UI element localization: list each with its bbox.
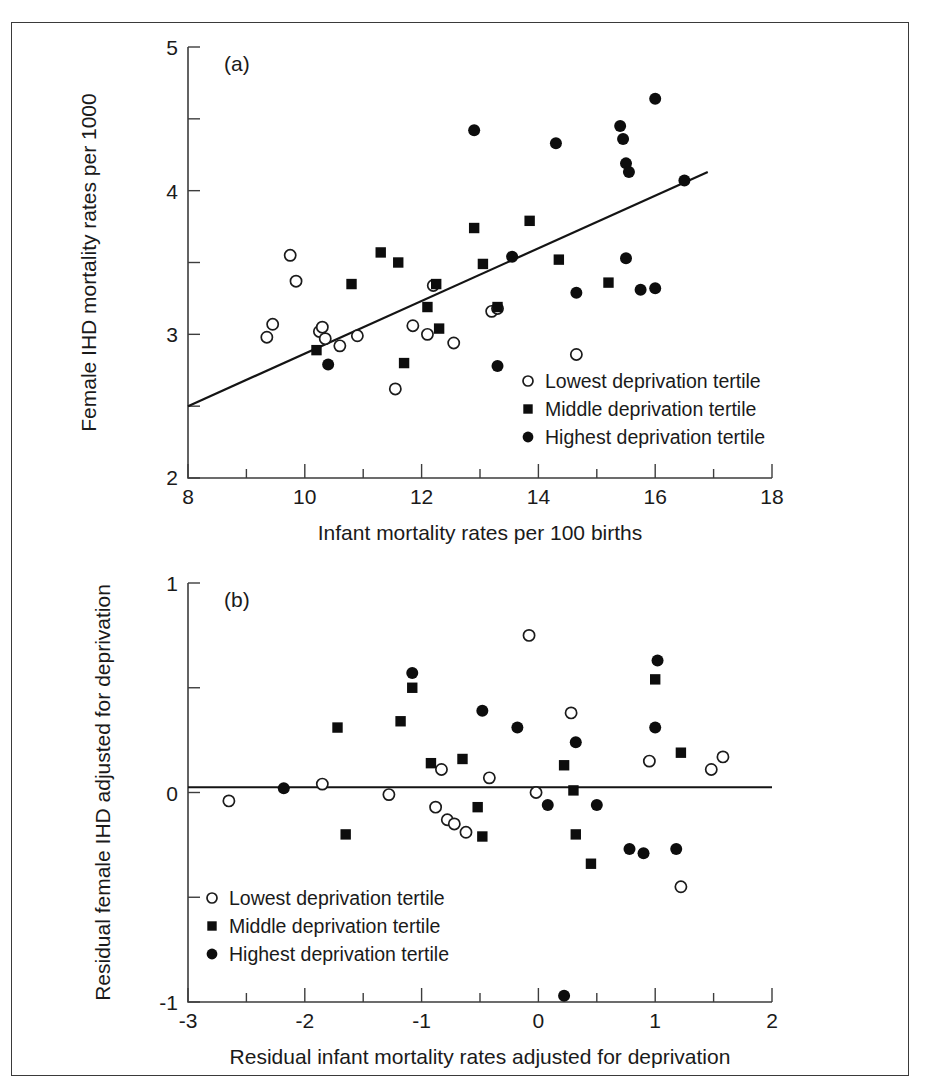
data-point (317, 779, 328, 790)
panel-b-y-ticklabel: 0 (166, 782, 178, 805)
data-point (530, 787, 541, 798)
data-point (586, 859, 596, 869)
data-point (568, 785, 578, 795)
data-point (717, 751, 728, 762)
data-point (570, 736, 582, 748)
data-point (472, 802, 482, 812)
panel-b-y-ticklabel: 1 (166, 572, 178, 595)
panel-b-label: (b) (224, 588, 250, 611)
legend-label: Highest deprivation tertile (229, 943, 449, 965)
data-point (223, 795, 234, 806)
panel-b-legend: Lowest deprivation tertileMiddle depriva… (207, 887, 449, 965)
data-point (591, 799, 603, 811)
legend-marker (207, 893, 217, 903)
legend-label: Middle deprivation tertile (229, 915, 440, 937)
panel-b-y-ticklabel: -1 (159, 991, 178, 1014)
panel-b-axes (188, 583, 772, 1002)
data-point (624, 843, 636, 855)
data-point (395, 716, 405, 726)
data-point (407, 683, 417, 693)
data-point (484, 772, 495, 783)
panel-b-x-ticklabel: 0 (533, 1009, 545, 1032)
data-point (676, 747, 686, 757)
panel-b-x-ticklabel: -2 (295, 1009, 314, 1032)
data-point (476, 705, 488, 717)
panel-b-x-ticklabel: -1 (412, 1009, 431, 1032)
panel-b-ylabel: Residual female IHD adjusted for depriva… (91, 584, 114, 1001)
data-point (542, 799, 554, 811)
data-point (406, 667, 418, 679)
data-point (670, 843, 682, 855)
panel-b-x-ticklabel: 2 (766, 1009, 778, 1032)
data-point (340, 829, 350, 839)
data-point (426, 758, 436, 768)
data-point (278, 782, 290, 794)
data-point (638, 847, 650, 859)
data-point (511, 722, 523, 734)
data-point (566, 707, 577, 718)
data-point (706, 764, 717, 775)
panel-b-series (332, 674, 686, 869)
panel-b-series (223, 630, 728, 893)
data-point (652, 655, 664, 667)
data-point (383, 789, 394, 800)
panel-b-x-ticklabel: -3 (179, 1009, 198, 1032)
data-point (649, 722, 661, 734)
data-point (449, 818, 460, 829)
data-point (523, 630, 534, 641)
data-point (644, 755, 655, 766)
data-point (559, 760, 569, 770)
panel-b-plot: -101-3-2-1012Residual infant mortality r… (0, 0, 925, 1092)
legend-marker (207, 949, 218, 960)
data-point (571, 829, 581, 839)
data-point (457, 754, 467, 764)
data-point (332, 722, 342, 732)
data-point (430, 802, 441, 813)
data-point (675, 881, 686, 892)
figure-root: 234581012141618Infant mortality rates pe… (0, 0, 925, 1092)
data-point (436, 764, 447, 775)
data-point (477, 831, 487, 841)
panel-b-x-ticklabel: 1 (649, 1009, 661, 1032)
data-point (460, 827, 471, 838)
panel-b-xlabel: Residual infant mortality rates adjusted… (230, 1045, 731, 1068)
legend-marker (207, 921, 216, 930)
legend-label: Lowest deprivation tertile (229, 887, 445, 909)
data-point (558, 990, 570, 1002)
data-point (650, 674, 660, 684)
